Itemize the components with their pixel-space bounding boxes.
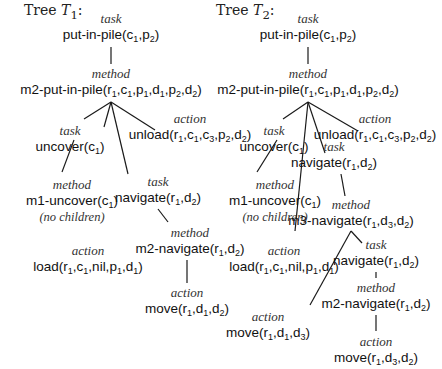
node-kind-label: task [240, 124, 309, 138]
node-label: navigate(r1,d2) [291, 154, 377, 171]
node-label: navigate(r1,d2) [333, 252, 419, 269]
node-kind-label: task [115, 175, 201, 189]
node-note: (no children) [26, 209, 118, 225]
task-node: tasknavigate(r1,d2) [333, 238, 419, 269]
node-label: m2-put-in-pile(r1,c1,p1,d1,p2,d2) [217, 81, 399, 98]
node-kind-label: method [321, 281, 430, 295]
method-node: methodm3-navigate(r1,d3,d2) [288, 198, 413, 229]
node-kind-label: task [260, 12, 356, 26]
title-prefix: Tree [216, 2, 253, 18]
node-kind-label: action [229, 244, 338, 258]
node-label: m3-navigate(r1,d3,d2) [288, 212, 413, 229]
node-kind-label: action [314, 112, 437, 126]
node-label: m2-navigate(r1,d2) [135, 240, 244, 257]
node-kind-label: action [334, 335, 418, 349]
tree-edge [158, 209, 168, 222]
node-kind-label: method [217, 67, 399, 81]
action-node: actionload(r1,c1,nil,p1,d1) [33, 244, 142, 275]
node-label: m1-uncover(c1) [26, 192, 118, 209]
node-kind-label: task [63, 12, 159, 26]
action-node: actionunload(r1,c1,c3,p2,d2) [129, 112, 252, 143]
task-node: taskput-in-pile(c1,p2) [63, 12, 159, 43]
tree-edge [283, 102, 308, 119]
action-node: actionmove(r1,d1,d2) [145, 286, 229, 317]
node-label: put-in-pile(c1,p2) [63, 26, 159, 43]
node-kind-label: action [129, 112, 252, 126]
node-label: load(r1,c1,nil,p1,d1) [229, 258, 338, 275]
task-node: taskuncover(c1) [36, 124, 105, 155]
node-kind-label: method [135, 226, 244, 240]
node-label: move(r1,d1,d2) [145, 300, 229, 317]
node-label: unload(r1,c1,c3,p2,d2) [129, 126, 252, 143]
task-node: tasknavigate(r1,d2) [291, 140, 377, 171]
node-kind-label: task [333, 238, 419, 252]
node-label: navigate(r1,d2) [115, 189, 201, 206]
node-label: m2-put-in-pile(r1,c1,p1,d1,p2,d2) [20, 81, 202, 98]
htn-tree-diagram: Tree T1: Tree T2: taskput-in-pile(c1,p2)… [0, 0, 442, 369]
action-node: actionload(r1,c1,nil,p1,d1) [229, 244, 338, 275]
node-kind-label: action [145, 286, 229, 300]
method-node: methodm2-put-in-pile(r1,c1,p1,d1,p2,d2) [20, 67, 202, 98]
task-node: taskput-in-pile(c1,p2) [260, 12, 356, 43]
node-kind-label: method [288, 198, 413, 212]
node-kind-label: task [291, 140, 377, 154]
node-label: uncover(c1) [36, 138, 105, 155]
node-label: move(r1,d1,d3) [226, 324, 310, 341]
method-node: methodm2-navigate(r1,d2) [135, 226, 244, 257]
node-label: move(r1,d3,d2) [334, 349, 418, 366]
method-node: methodm2-put-in-pile(r1,c1,p1,d1,p2,d2) [217, 67, 399, 98]
action-node: actionmove(r1,d1,d3) [226, 310, 310, 341]
node-kind-label: action [226, 310, 310, 324]
node-label: m2-navigate(r1,d2) [321, 295, 430, 312]
tree-edge [341, 174, 345, 196]
tree-edge [111, 102, 128, 174]
node-kind-label: method [20, 67, 202, 81]
node-label: put-in-pile(c1,p2) [260, 26, 356, 43]
node-label: load(r1,c1,nil,p1,d1) [33, 258, 142, 275]
node-kind-label: action [33, 244, 142, 258]
action-node: actionmove(r1,d3,d2) [334, 335, 418, 366]
node-kind-label: task [36, 124, 105, 138]
title-prefix: Tree [24, 2, 61, 18]
method-node: methodm1-uncover(c1)(no children) [26, 178, 118, 225]
method-node: methodm2-navigate(r1,d2) [321, 281, 430, 312]
task-node: tasknavigate(r1,d2) [115, 175, 201, 206]
node-kind-label: method [229, 178, 321, 192]
node-kind-label: method [26, 178, 118, 192]
